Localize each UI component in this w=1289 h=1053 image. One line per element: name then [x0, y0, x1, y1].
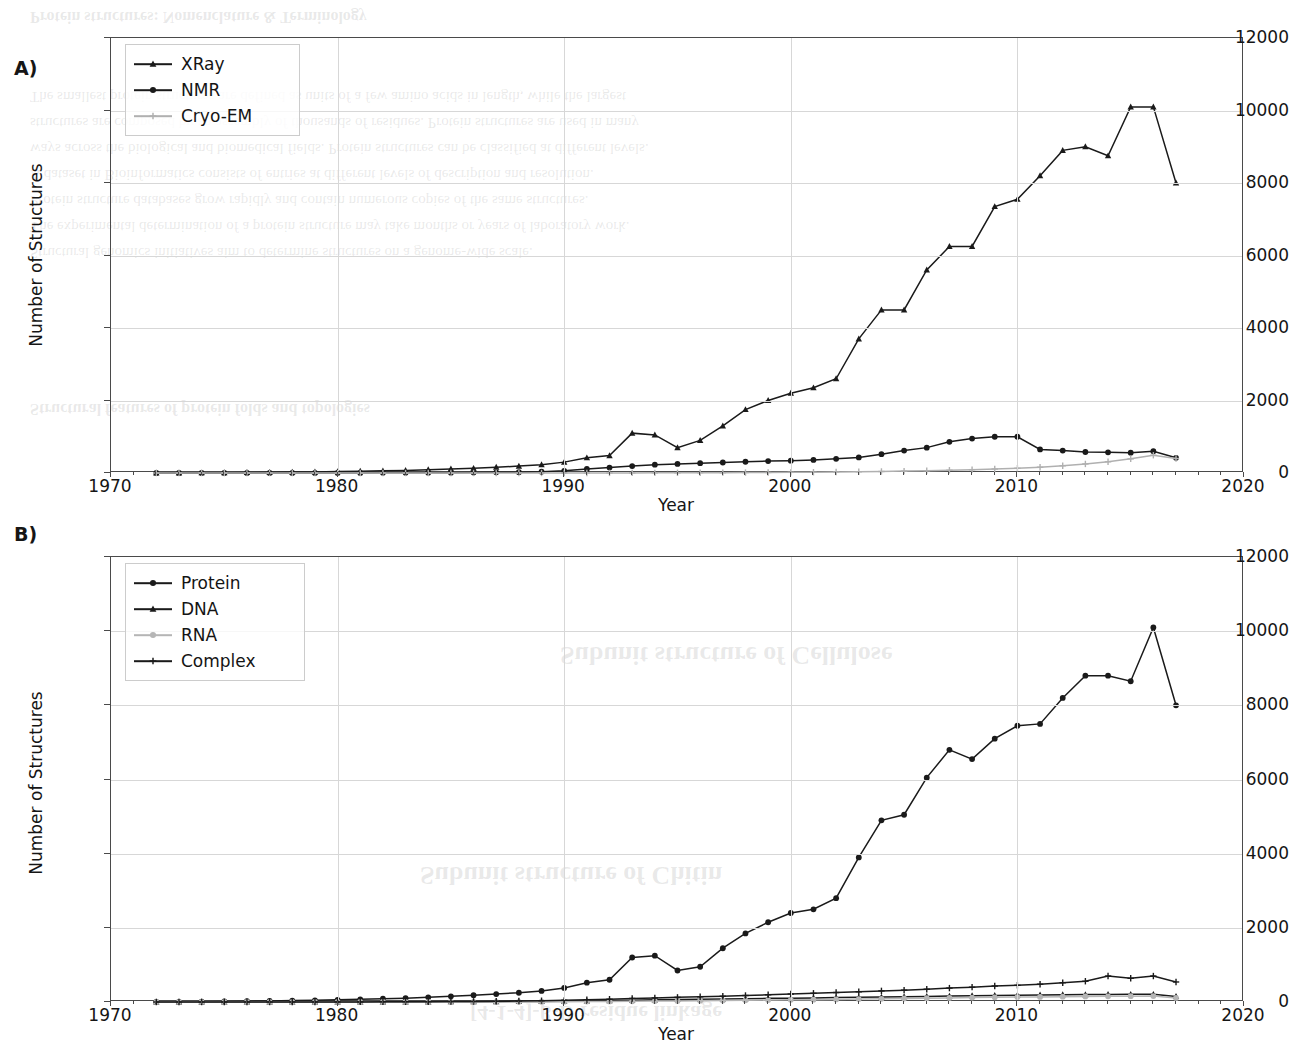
series-marker [743, 930, 749, 936]
series-marker [969, 995, 975, 1001]
series-marker [1060, 980, 1066, 986]
x-minor-tick-mark [926, 1001, 927, 1004]
series-marker [629, 463, 635, 469]
legend-item-complex[interactable]: Complex [134, 648, 294, 674]
series-marker [833, 989, 839, 995]
legend-marker-icon [134, 654, 172, 668]
series-marker [1060, 463, 1066, 469]
series-marker [1037, 721, 1043, 727]
x-minor-tick-mark [948, 472, 949, 475]
gridline-vertical [564, 557, 565, 1000]
x-minor-tick-mark [699, 1001, 700, 1004]
series-marker [1037, 447, 1043, 453]
gridline-horizontal [111, 705, 1242, 706]
series-marker [607, 977, 613, 983]
legend-b: ProteinDNARNAComplex [125, 563, 305, 681]
x-minor-tick-mark [654, 1001, 655, 1004]
x-minor-tick-mark [1220, 472, 1221, 475]
series-marker [878, 468, 884, 474]
y-tick-label: 8000 [1188, 172, 1289, 192]
x-minor-tick-mark [1062, 1001, 1063, 1004]
x-tick-label: 1970 [88, 476, 131, 496]
series-marker [1037, 981, 1043, 987]
legend-a: XRayNMRCryo-EM [125, 44, 300, 136]
legend-item-protein[interactable]: Protein [134, 570, 294, 596]
x-minor-tick-mark [223, 472, 224, 475]
series-marker [947, 747, 953, 753]
x-minor-tick-mark [1062, 472, 1063, 475]
series-marker [1037, 464, 1043, 470]
series-marker [901, 812, 907, 818]
series-marker [1128, 975, 1134, 981]
y-tick-label: 12000 [1188, 27, 1289, 47]
x-minor-tick-mark [722, 472, 723, 475]
legend-marker-icon [134, 109, 172, 123]
x-minor-tick-mark [835, 472, 836, 475]
series-marker [720, 469, 726, 475]
series-marker [1173, 979, 1179, 985]
series-marker [811, 906, 817, 912]
x-minor-tick-mark [495, 472, 496, 475]
x-tick-mark [1243, 472, 1244, 477]
series-marker [901, 448, 907, 454]
x-minor-tick-mark [744, 1001, 745, 1004]
legend-item-nmr[interactable]: NMR [134, 77, 289, 103]
series-marker [969, 984, 975, 990]
x-minor-tick-mark [1175, 472, 1176, 475]
series-marker [1082, 673, 1088, 679]
chart-panel-a: A) 020004000600080001000012000 197019801… [0, 0, 1289, 520]
series-marker [584, 980, 590, 986]
x-minor-tick-mark [427, 1001, 428, 1004]
x-minor-tick-mark [246, 1001, 247, 1004]
x-minor-tick-mark [1107, 1001, 1108, 1004]
series-marker [629, 955, 635, 961]
x-tick-label: 1990 [542, 476, 585, 496]
gridline-vertical [791, 38, 792, 471]
x-minor-tick-mark [948, 1001, 949, 1004]
x-minor-tick-mark [178, 1001, 179, 1004]
legend-item-xray[interactable]: XRay [134, 51, 289, 77]
x-minor-tick-mark [677, 1001, 678, 1004]
x-tick-mark [110, 472, 111, 477]
x-minor-tick-mark [246, 472, 247, 475]
series-marker [1060, 448, 1066, 454]
y-tick-mark [104, 630, 110, 631]
legend-item-rna[interactable]: RNA [134, 622, 294, 648]
series-marker [1128, 678, 1134, 684]
gridline-horizontal [111, 328, 1242, 329]
series-marker [765, 997, 771, 1003]
y-tick-mark [104, 110, 110, 111]
series-marker [1128, 993, 1134, 999]
series-marker [674, 470, 680, 476]
x-minor-tick-mark [223, 1001, 224, 1004]
x-tick-mark [790, 1001, 791, 1006]
series-marker [697, 460, 703, 466]
x-minor-tick-mark [269, 1001, 270, 1004]
y-tick-mark [104, 400, 110, 401]
series-marker [879, 451, 885, 457]
series-marker [879, 996, 885, 1002]
x-minor-tick-mark [880, 1001, 881, 1004]
x-tick-label: 2020 [1221, 1005, 1264, 1025]
series-marker [1082, 449, 1088, 455]
x-minor-tick-mark [1039, 472, 1040, 475]
x-tick-label: 1980 [315, 1005, 358, 1025]
series-marker [697, 470, 703, 476]
legend-marker-icon [134, 57, 172, 71]
series-marker [879, 817, 885, 823]
x-minor-tick-mark [722, 1001, 723, 1004]
x-tick-label: 2010 [995, 1005, 1038, 1025]
legend-item-label: Complex [181, 653, 256, 670]
series-marker [1037, 994, 1043, 1000]
y-tick-label: 2000 [1188, 917, 1289, 937]
series-marker [1082, 461, 1088, 467]
series-marker [946, 467, 952, 473]
x-tick-label: 1980 [315, 476, 358, 496]
y-tick-mark [104, 37, 110, 38]
x-minor-tick-mark [359, 1001, 360, 1004]
legend-item-cryo-em[interactable]: Cryo-EM [134, 103, 289, 129]
x-tick-mark [1016, 472, 1017, 477]
series-marker [743, 459, 749, 465]
gridline-horizontal [111, 401, 1242, 402]
legend-item-dna[interactable]: DNA [134, 596, 294, 622]
